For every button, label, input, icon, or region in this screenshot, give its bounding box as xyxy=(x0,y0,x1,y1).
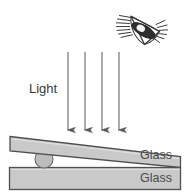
light-label: Light xyxy=(29,82,57,95)
glass-label-bottom: Glass xyxy=(140,172,172,185)
diagram-canvas: Light Glass Glass xyxy=(0,0,188,193)
light-rays-group xyxy=(68,52,119,130)
diagram-svg xyxy=(0,0,188,193)
eye-icon xyxy=(117,16,168,45)
glass-label-top: Glass xyxy=(140,149,172,162)
